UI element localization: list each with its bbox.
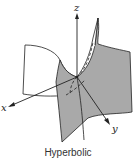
figure-caption: Hyperbolic [0, 147, 136, 159]
x-axis-label: x [1, 103, 7, 113]
saddle-surface-diagram: z x y Hyperbolic [0, 0, 136, 159]
x-axis-arrowhead [8, 102, 15, 107]
z-axis-label: z [74, 3, 79, 13]
y-axis-arrowhead [104, 118, 110, 125]
z-axis-arrowhead [75, 13, 79, 19]
saddle-surface-svg [0, 0, 136, 159]
origin-point [76, 76, 79, 79]
y-axis-label: y [112, 124, 118, 134]
